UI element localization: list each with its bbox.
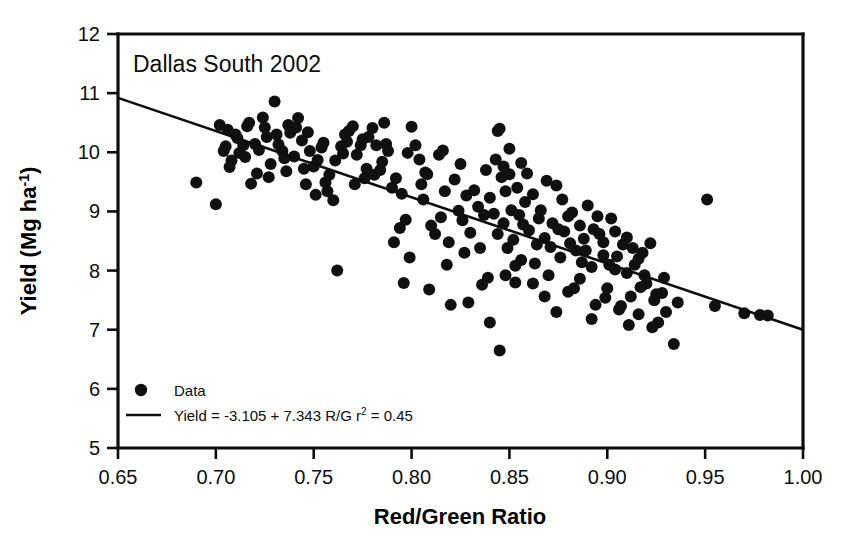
data-point (500, 269, 512, 281)
data-point (517, 218, 529, 230)
data-point (494, 344, 506, 356)
data-point (482, 272, 494, 284)
data-point (376, 156, 388, 168)
y-tick-label: 11 (79, 82, 100, 104)
regression-line (118, 98, 803, 330)
data-point (646, 321, 658, 333)
x-tick-label: 1.00 (784, 466, 823, 488)
data-point (409, 139, 421, 151)
legend-fit-main: Yield = -3.105 + 7.343 R/G r (174, 407, 361, 424)
legend: Data Yield = -3.105 + 7.343 R/G r2 = 0.4… (126, 382, 413, 424)
data-point (503, 143, 515, 155)
data-point (574, 220, 586, 232)
data-point (378, 117, 390, 129)
legend-label-data: Data (174, 382, 206, 399)
data-point (406, 121, 418, 133)
y-axis-title: Yield (Mg ha-1) (16, 167, 41, 316)
data-point (480, 164, 492, 176)
data-point (578, 233, 590, 245)
data-point (509, 276, 521, 288)
x-axis-title: Red/Green Ratio (374, 504, 546, 529)
data-point (341, 136, 353, 148)
data-point (635, 281, 647, 293)
x-tick-label: 0.95 (686, 466, 725, 488)
data-point (437, 145, 449, 157)
data-point (533, 213, 545, 225)
data-point (511, 182, 523, 194)
x-axis-ticks (118, 448, 803, 459)
data-point (300, 178, 312, 190)
data-point (310, 189, 322, 201)
data-point (357, 133, 369, 145)
data-point (439, 185, 451, 197)
data-point (588, 223, 600, 235)
data-point (562, 210, 574, 222)
x-tick-label: 0.80 (392, 466, 431, 488)
x-axis-tick-labels: 0.650.700.750.800.850.900.951.00 (99, 466, 823, 488)
y-axis-title-close: ) (16, 167, 41, 174)
data-point (564, 237, 576, 249)
data-point (498, 160, 510, 172)
chart-figure: 56789101112 0.650.700.750.800.850.900.95… (0, 0, 850, 544)
data-point (400, 214, 412, 226)
y-axis-tick-labels: 56789101112 (78, 23, 100, 459)
data-point (527, 188, 539, 200)
y-tick-label: 9 (89, 200, 100, 222)
y-tick-label: 5 (89, 437, 100, 459)
data-point (329, 155, 341, 167)
data-point (445, 299, 457, 311)
data-point (366, 122, 378, 134)
y-tick-label: 6 (89, 378, 100, 400)
data-point (302, 126, 314, 138)
data-point (449, 173, 461, 185)
x-tick-label: 0.65 (99, 466, 138, 488)
data-point (271, 129, 283, 141)
data-point (259, 121, 271, 133)
data-point (668, 338, 680, 350)
data-point (239, 151, 251, 163)
data-point (380, 138, 392, 150)
data-point (609, 226, 621, 238)
data-point (625, 291, 637, 303)
data-point (627, 242, 639, 254)
data-point (280, 165, 292, 177)
data-point (615, 300, 627, 312)
data-point (543, 269, 555, 281)
data-point (388, 236, 400, 248)
data-point (245, 178, 257, 190)
data-point (390, 172, 402, 184)
data-point (550, 306, 562, 318)
data-point (224, 161, 236, 173)
axis-lines (118, 34, 803, 448)
data-point (539, 291, 551, 303)
data-point (435, 211, 447, 223)
x-tick-label: 0.90 (588, 466, 627, 488)
panel-title: Dallas South 2002 (133, 51, 321, 77)
data-point (494, 123, 506, 135)
data-point (318, 137, 330, 149)
data-point (529, 257, 541, 269)
legend-label-fit: Yield = -3.105 + 7.343 R/G r2 = 0.45 (174, 406, 413, 424)
y-axis-title-sup: -1 (16, 174, 32, 187)
data-point (423, 283, 435, 295)
data-point (552, 223, 564, 235)
data-point (474, 242, 486, 254)
y-axis-ticks (107, 34, 118, 448)
data-point (597, 236, 609, 248)
data-point (592, 210, 604, 222)
data-point (413, 153, 425, 165)
data-point (527, 278, 539, 290)
data-point (263, 171, 275, 183)
data-point (621, 231, 633, 243)
data-point (368, 169, 380, 181)
data-point (455, 158, 467, 170)
data-point (644, 237, 656, 249)
data-point (568, 282, 580, 294)
data-point (290, 121, 302, 133)
legend-fit-tail: = 0.45 (367, 407, 413, 424)
data-point (556, 194, 568, 206)
data-point (251, 168, 263, 180)
data-point (586, 313, 598, 325)
data-point (210, 198, 222, 210)
data-point (443, 236, 455, 248)
